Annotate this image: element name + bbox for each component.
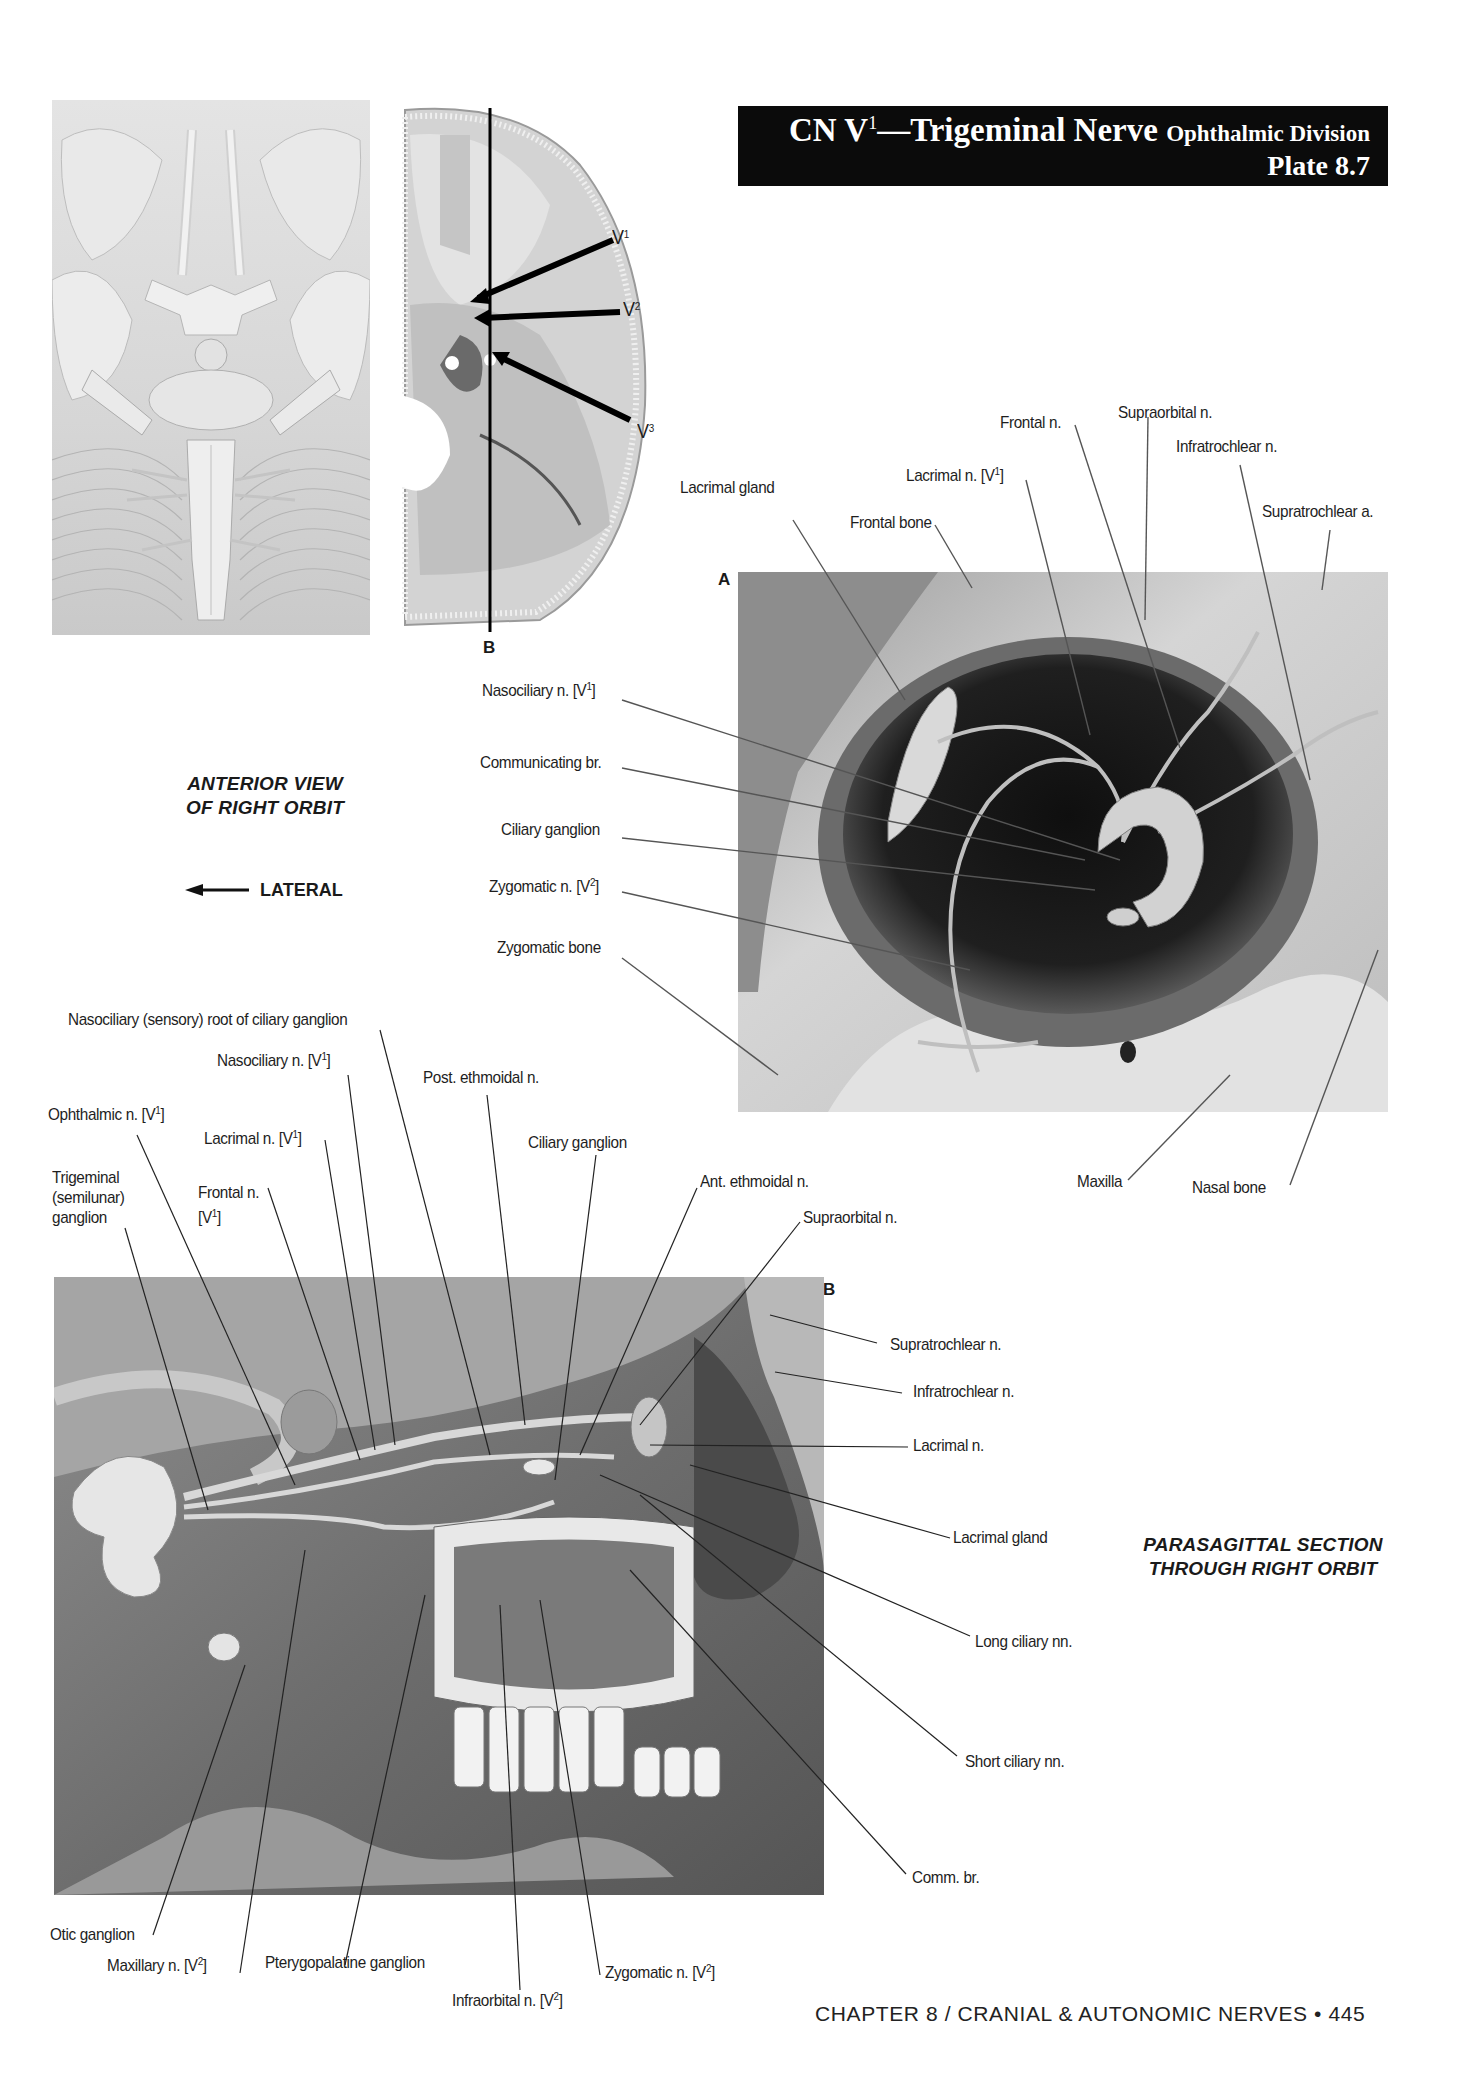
figure-b-letter: B — [823, 1280, 835, 1300]
parasagittal-illustration-svg — [54, 1277, 824, 1895]
caption-b-line2: THROUGH RIGHT ORBIT — [1128, 1557, 1398, 1581]
v1-label: V1 — [612, 226, 629, 249]
label-b-nasociliary-root: Nasociliary (sensory) root of ciliary ga… — [68, 1010, 347, 1030]
label-a-supratrochlear-a: Supratrochlear a. — [1262, 502, 1373, 522]
label-b-short-ciliary-nn: Short ciliary nn. — [965, 1752, 1064, 1772]
label-a-frontal-bone: Frontal bone — [850, 513, 932, 533]
parasagittal-section-illustration — [54, 1277, 824, 1895]
title-superscript: 1 — [868, 113, 877, 133]
figure-a-caption: ANTERIOR VIEW OF RIGHT ORBIT — [150, 772, 380, 820]
caption-a-line2: OF RIGHT ORBIT — [150, 796, 380, 820]
caption-a-line1: ANTERIOR VIEW — [150, 772, 380, 796]
v3-label: V3 — [637, 420, 654, 443]
page-footer: CHAPTER 8 / CRANIAL & AUTONOMIC NERVES •… — [815, 2002, 1365, 2026]
label-a-maxilla: Maxilla — [1077, 1172, 1122, 1192]
figure-b-caption: PARASAGITTAL SECTION THROUGH RIGHT ORBIT — [1128, 1533, 1398, 1581]
label-b-frontal-n: Frontal n.[V1] — [198, 1183, 259, 1228]
label-b-trigeminal-ganglion: Trigeminal(semilunar)ganglion — [52, 1168, 125, 1228]
caption-b-line1: PARASAGITTAL SECTION — [1128, 1533, 1398, 1557]
label-a-ciliary-ganglion: Ciliary ganglion — [501, 820, 600, 840]
title-prefix: CN V — [789, 112, 868, 148]
label-b-comm-br: Comm. br. — [912, 1868, 979, 1888]
label-b-ophthalmic-n: Ophthalmic n. [V1] — [48, 1104, 164, 1125]
title-division: Ophthalmic Division — [1166, 121, 1370, 146]
v2-label: V2 — [623, 298, 640, 321]
label-b-infratrochlear-n: Infratrochlear n. — [913, 1382, 1014, 1402]
label-b-post-ethmoidal-n: Post. ethmoidal n. — [423, 1068, 539, 1088]
label-b-infraorbital-n: Infraorbital n. [V2] — [452, 1990, 563, 2011]
label-a-frontal-n: Frontal n. — [1000, 413, 1061, 433]
orbit-anterior-illustration — [738, 572, 1388, 1112]
label-a-communicating-br: Communicating br. — [480, 753, 601, 773]
label-a-zygomatic-n: Zygomatic n. [V2] — [489, 876, 599, 897]
label-a-supraorbital-n: Supraorbital n. — [1118, 403, 1212, 423]
label-a-nasal-bone: Nasal bone — [1192, 1178, 1266, 1198]
label-a-lacrimal-n: Lacrimal n. [V1] — [906, 465, 1004, 486]
lateral-arrow-icon — [185, 883, 250, 897]
plate-title: CN V1—Trigeminal Nerve Ophthalmic Divisi… — [789, 112, 1370, 149]
lateral-direction-label: LATERAL — [260, 880, 343, 901]
skull-section-svg — [400, 105, 650, 630]
label-b-lacrimal-n: Lacrimal n. — [913, 1436, 984, 1456]
label-b-ant-ethmoidal-n: Ant. ethmoidal n. — [700, 1172, 809, 1192]
section-line-letter: B — [483, 638, 495, 658]
title-main-text: —Trigeminal Nerve — [877, 112, 1166, 148]
brain-illustration-svg — [52, 100, 370, 635]
label-b-zygomatic-n: Zygomatic n. [V2] — [605, 1962, 715, 1983]
label-b-otic-ganglion: Otic ganglion — [50, 1925, 135, 1945]
label-b-ciliary-ganglion: Ciliary ganglion — [528, 1133, 627, 1153]
figure-a-letter: A — [718, 570, 730, 590]
label-b-long-ciliary-nn: Long ciliary nn. — [975, 1632, 1072, 1652]
orbit-illustration-svg — [738, 572, 1388, 1112]
label-b-supratrochlear-n: Supratrochlear n. — [890, 1335, 1001, 1355]
label-b-lacrimal-n-v1: Lacrimal n. [V1] — [204, 1128, 302, 1149]
label-b-nasociliary-n: Nasociliary n. [V1] — [217, 1050, 330, 1071]
label-b-maxillary-n: Maxillary n. [V2] — [107, 1955, 207, 1976]
label-b-supraorbital-n: Supraorbital n. — [803, 1208, 897, 1228]
label-b-lacrimal-gland: Lacrimal gland — [953, 1528, 1047, 1548]
label-b-pterygopalatine-ganglion: Pterygopalatine ganglion — [265, 1953, 425, 1973]
plate-title-bar: CN V1—Trigeminal Nerve Ophthalmic Divisi… — [738, 106, 1388, 186]
cranial-base-illustration — [400, 105, 650, 630]
label-a-nasociliary-n: Nasociliary n. [V1] — [482, 680, 595, 701]
label-a-lacrimal-gland: Lacrimal gland — [680, 478, 774, 498]
label-a-infratrochlear-n: Infratrochlear n. — [1176, 437, 1277, 457]
brain-inferior-illustration — [52, 100, 370, 635]
label-a-zygomatic-bone: Zygomatic bone — [497, 938, 601, 958]
plate-number: Plate 8.7 — [1267, 150, 1370, 182]
